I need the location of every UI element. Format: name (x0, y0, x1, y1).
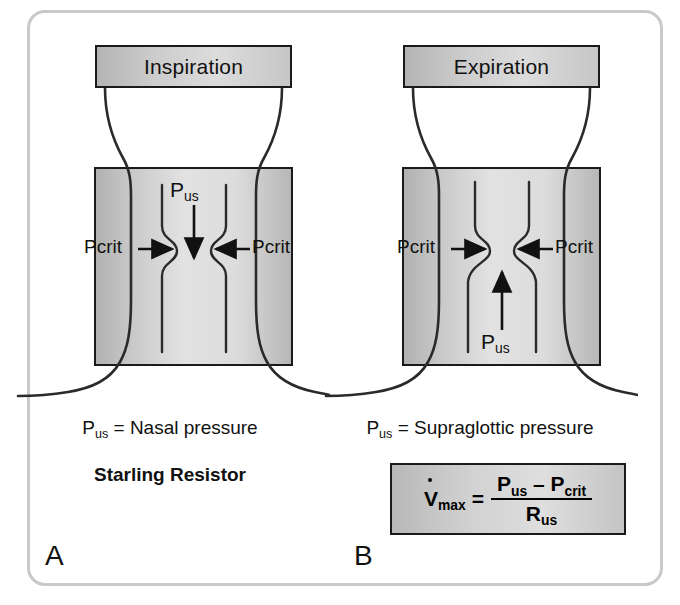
denominator-term: R (526, 502, 541, 525)
panel-letter-a: A (45, 540, 64, 572)
vmax-subscript: max (438, 497, 466, 513)
figure-root: Inspiration Pus Pcrit Pcrit Pus = Nasal … (0, 0, 680, 605)
caption-a-subscript: us (95, 427, 108, 441)
panel-a-caption: Pus = Nasal pressure (10, 417, 330, 439)
caption-b-text: = Supraglottic pressure (392, 417, 593, 438)
pcrit-label-right-b: Pcrit (555, 236, 593, 258)
pcrit-label-right-a: Pcrit (252, 236, 290, 258)
panel-letter-b: B (354, 540, 373, 572)
vmax-formula: Vmax = Pus – Pcrit Rus (424, 472, 592, 525)
pcrit-label-left-b: Pcrit (397, 236, 435, 258)
panel-b: Expiration Pus Pcrit Pcrit Pus = Supragl… (318, 0, 638, 605)
vmax-term: Vmax (424, 487, 469, 511)
formula-denominator: Rus (526, 500, 557, 526)
numerator-term1: P (497, 472, 511, 495)
caption-a-text: = Nasal pressure (108, 417, 257, 438)
starling-resistor-caption: Starling Resistor (10, 464, 330, 486)
formula-numerator: Pus – Pcrit (491, 472, 592, 498)
denominator-sub: us (541, 512, 557, 528)
panel-a: Inspiration Pus Pcrit Pcrit Pus = Nasal … (10, 0, 330, 605)
panel-a-graphics (10, 0, 330, 605)
pus-label-a: Pus (170, 178, 199, 202)
caption-b-symbol: P (366, 417, 379, 438)
v-dot-icon (428, 478, 432, 482)
equals-sign: = (472, 487, 484, 511)
numerator-operator: – (533, 472, 545, 495)
caption-b-subscript: us (379, 427, 392, 441)
pus-subscript: us (495, 340, 510, 356)
pus-symbol: P (170, 178, 184, 201)
numerator-sub2: crit (565, 483, 587, 499)
formula-fraction: Pus – Pcrit Rus (491, 472, 592, 525)
numerator-term2: P (551, 472, 565, 495)
pus-label-b: Pus (481, 330, 510, 354)
pus-subscript: us (184, 188, 199, 204)
panel-b-header-label: Expiration (403, 45, 600, 88)
panel-b-caption: Pus = Supraglottic pressure (320, 417, 640, 439)
caption-a-symbol: P (82, 417, 95, 438)
vmax-formula-box: Vmax = Pus – Pcrit Rus (390, 463, 626, 535)
panel-a-header-label: Inspiration (95, 45, 292, 88)
pus-symbol: P (481, 330, 495, 353)
numerator-sub1: us (511, 483, 527, 499)
pcrit-label-left-a: Pcrit (84, 236, 122, 258)
vmax-symbol: V (424, 487, 438, 510)
